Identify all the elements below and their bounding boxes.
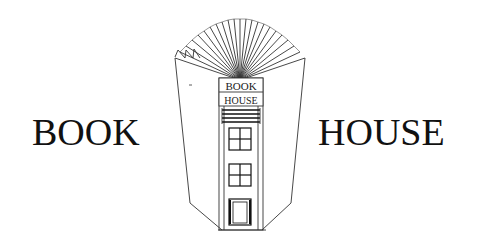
left-cover [175, 58, 222, 230]
book-house-logo: BOOK HOUSE BOOK HOUSE [0, 0, 477, 238]
sign-line-book: BOOK [225, 80, 256, 92]
logo-word-house: HOUSE [318, 113, 445, 151]
fanned-pages-icon [175, 19, 305, 80]
logo-word-book: BOOK [32, 113, 140, 151]
sign-line-house: HOUSE [224, 95, 257, 106]
right-cover [262, 58, 305, 230]
